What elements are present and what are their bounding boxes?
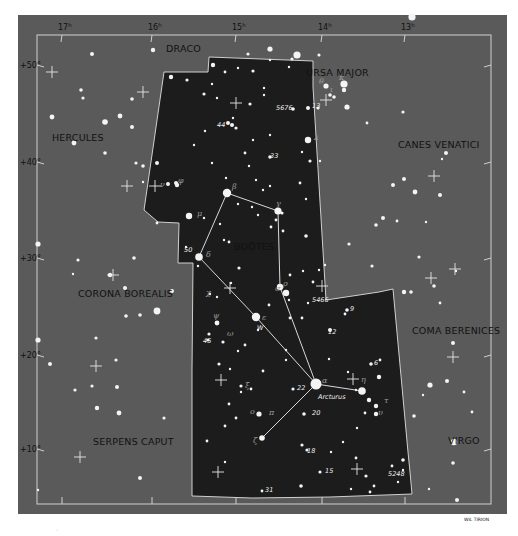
star bbox=[369, 491, 372, 494]
star bbox=[251, 69, 254, 72]
star-label-greek: ξ bbox=[245, 381, 250, 390]
star bbox=[451, 461, 455, 465]
star bbox=[223, 189, 231, 197]
star bbox=[228, 241, 231, 244]
star bbox=[142, 181, 144, 183]
star bbox=[138, 313, 142, 317]
star-label-variable: W bbox=[257, 324, 264, 332]
star bbox=[299, 484, 303, 488]
star bbox=[262, 189, 264, 191]
star bbox=[408, 13, 415, 20]
dec-tick-label: +30° bbox=[20, 254, 41, 263]
star-label-greek: ο bbox=[250, 407, 255, 416]
star-label-ngc: 5248 bbox=[388, 470, 405, 478]
star bbox=[364, 412, 367, 415]
star bbox=[374, 223, 378, 227]
star bbox=[232, 117, 234, 119]
star bbox=[114, 358, 117, 361]
star-chart: 17h16h15h14h13h+50°+40°+30°+20°+10° Arct… bbox=[0, 0, 518, 536]
arcturus-label: Arcturus bbox=[317, 393, 346, 401]
dec-tick-label: +50° bbox=[20, 61, 41, 70]
star bbox=[197, 265, 199, 267]
star bbox=[257, 214, 259, 216]
star bbox=[251, 206, 253, 208]
star bbox=[451, 341, 455, 345]
star-label-flamsteed: 31 bbox=[265, 486, 273, 494]
star bbox=[35, 337, 40, 342]
star-label-greek: ψ bbox=[213, 311, 220, 320]
star bbox=[207, 332, 210, 335]
star bbox=[154, 308, 161, 315]
dec-tick-label: +40° bbox=[20, 158, 41, 167]
star bbox=[342, 88, 346, 92]
star bbox=[115, 385, 119, 389]
star bbox=[319, 160, 321, 162]
star bbox=[422, 394, 424, 396]
star bbox=[425, 221, 427, 223]
star bbox=[248, 165, 250, 167]
star bbox=[216, 296, 218, 298]
star bbox=[299, 182, 302, 185]
star bbox=[204, 130, 206, 132]
star bbox=[402, 290, 406, 294]
star bbox=[471, 411, 474, 414]
star bbox=[224, 461, 226, 463]
star-label-flamsteed: 44 bbox=[217, 121, 225, 129]
star bbox=[302, 270, 304, 272]
star-label-greek: θ bbox=[319, 77, 324, 86]
star bbox=[216, 97, 218, 99]
star bbox=[235, 417, 238, 420]
star bbox=[252, 139, 254, 141]
star bbox=[230, 123, 234, 127]
star-label-ngc: 5676 bbox=[276, 104, 293, 112]
star bbox=[239, 384, 242, 387]
constellation-label-serpens-caput: SERPENS CAPUT bbox=[93, 436, 174, 447]
star bbox=[300, 443, 303, 446]
star bbox=[134, 161, 137, 164]
star bbox=[369, 362, 373, 366]
star bbox=[103, 151, 107, 155]
dec-tick-label: +10° bbox=[20, 445, 41, 454]
star bbox=[444, 151, 448, 155]
star bbox=[259, 435, 265, 441]
constellation-label-hercules: HERCULES bbox=[52, 132, 104, 143]
star bbox=[162, 416, 165, 419]
star bbox=[345, 308, 349, 312]
star bbox=[269, 59, 271, 61]
star bbox=[445, 379, 449, 383]
star bbox=[293, 51, 300, 58]
star-label-greek: η bbox=[361, 375, 366, 384]
star bbox=[318, 269, 320, 271]
star bbox=[391, 183, 395, 187]
constellation-label-ursa-major: URSA MAJOR bbox=[306, 67, 369, 78]
star bbox=[402, 177, 406, 181]
star bbox=[355, 457, 358, 460]
star bbox=[211, 162, 213, 164]
star bbox=[373, 485, 376, 488]
star bbox=[269, 185, 271, 187]
star bbox=[237, 67, 239, 69]
star bbox=[230, 282, 232, 284]
star bbox=[288, 66, 290, 68]
star bbox=[367, 398, 371, 402]
star bbox=[261, 490, 264, 493]
star bbox=[255, 179, 257, 181]
star bbox=[401, 110, 404, 113]
star bbox=[252, 313, 260, 321]
star bbox=[223, 239, 225, 241]
star-label-flamsteed: 45 bbox=[203, 337, 211, 345]
star-label-greek: τ bbox=[384, 396, 389, 405]
star bbox=[441, 158, 443, 160]
star bbox=[132, 256, 136, 260]
star bbox=[206, 440, 209, 443]
star-label-greek: σ bbox=[275, 284, 281, 293]
star bbox=[438, 193, 442, 197]
star-label-greek: μ bbox=[197, 209, 202, 218]
star bbox=[246, 52, 249, 55]
star bbox=[328, 358, 330, 360]
star bbox=[224, 425, 227, 428]
star bbox=[37, 489, 39, 491]
star bbox=[432, 284, 436, 288]
star bbox=[130, 97, 134, 101]
star bbox=[428, 488, 430, 490]
